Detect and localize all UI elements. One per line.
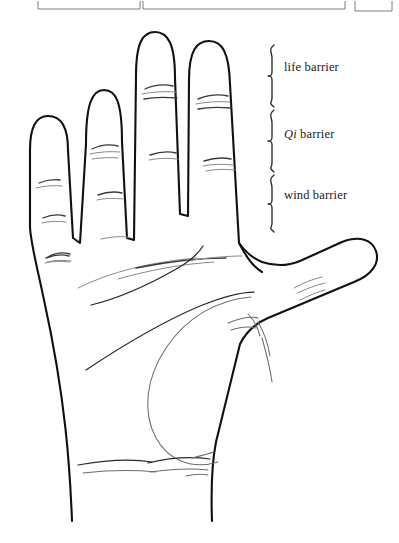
- little-finger-creases: [36, 180, 71, 262]
- label-qi-barrier-term: Qi: [284, 127, 297, 141]
- wrist-crease-upper: [78, 460, 152, 465]
- palm-lines-group: [86, 246, 272, 465]
- middle-box-bottom-edge: [143, 1, 345, 9]
- wrist-crease-tail: [192, 452, 214, 458]
- hand-silhouette: [30, 32, 377, 521]
- wrist-crease-lower-right: [150, 469, 208, 472]
- index-finger-creases: [196, 95, 235, 171]
- left-box-bottom-edge: [38, 1, 140, 9]
- figure-page: life barrier Qi barrier wind barrier: [0, 0, 399, 543]
- bracket-life-barrier: [268, 45, 274, 107]
- life-line-arc: [148, 297, 251, 465]
- top-frame-rules: [38, 1, 392, 11]
- web-branch-4: [258, 322, 270, 356]
- barrier-brackets: [268, 45, 274, 232]
- label-wind-barrier-text: wind barrier: [284, 188, 347, 202]
- label-life-barrier: life barrier: [284, 60, 339, 74]
- label-life-barrier-text: life barrier: [284, 60, 339, 74]
- right-box-bottom-edge: [355, 1, 392, 11]
- thumb-web-crease: [239, 243, 262, 272]
- wrist-crease-lower: [83, 471, 156, 473]
- hand-outline-group: [30, 32, 377, 521]
- label-qi-barrier-text: barrier: [297, 127, 335, 141]
- head-line: [86, 292, 254, 370]
- wrist-crease-tail-2: [186, 474, 208, 476]
- label-qi-barrier: Qi barrier: [284, 127, 334, 141]
- finger-creases-group: [36, 85, 325, 300]
- hand-diagram-svg: [0, 0, 399, 543]
- label-wind-barrier: wind barrier: [284, 188, 347, 202]
- bracket-wind-barrier: [268, 175, 274, 232]
- knuckle-crease-band: [45, 255, 242, 288]
- middle-finger-creases: [142, 85, 178, 160]
- bracket-qi-barrier: [268, 110, 274, 172]
